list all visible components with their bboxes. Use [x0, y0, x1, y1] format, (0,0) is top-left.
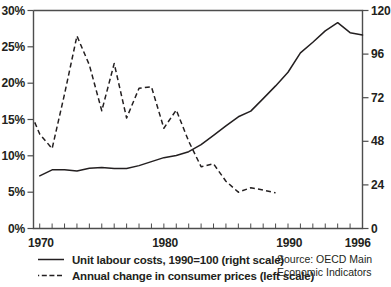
left-axis-tick-label: 15% [2, 113, 26, 127]
x-axis-tick-label: 1980 [152, 236, 178, 250]
series-group [35, 23, 363, 193]
left-axis-tick-label: 10% [2, 149, 26, 163]
source-note: Source: OECD Main Economic Indicators [277, 253, 372, 278]
series-line-consumer-price-change [35, 36, 276, 193]
left-axis-tick-label: 20% [2, 76, 26, 90]
x-axis-ticks [40, 224, 363, 229]
left-axis-tick-label: 0% [8, 222, 25, 236]
x-axis-tick-label: 1996 [345, 236, 371, 250]
right-axis-tick-label: 0 [371, 222, 378, 236]
x-axis-tick-label: 1970 [28, 236, 54, 250]
right-axis-tick-label: 72 [371, 91, 384, 105]
left-axis-tick-label: 5% [8, 185, 25, 199]
left-axis-tick-label: 30% [2, 4, 26, 18]
chart-figure: 30% 25% 20% 15% 10% 5% 0% 120 96 72 48 2… [0, 0, 391, 287]
plot-frame [34, 11, 363, 229]
right-axis-tick-label: 96 [371, 47, 384, 61]
right-axis-labels: 120 96 72 48 24 0 [371, 4, 391, 236]
x-axis-tick-label: 1990 [276, 236, 302, 250]
left-axis-ticks [28, 11, 34, 229]
series-line-unit-labour-costs [40, 23, 363, 176]
right-axis-ticks [363, 11, 369, 229]
legend-label-unit-labour-costs: Unit labour costs, 1990=100 (right scale… [72, 254, 284, 266]
right-axis-tick-label: 24 [371, 178, 384, 192]
chart-legend: Unit labour costs, 1990=100 (right scale… [38, 254, 315, 282]
chart-canvas: 30% 25% 20% 15% 10% 5% 0% 120 96 72 48 2… [0, 0, 391, 287]
left-axis-labels: 30% 25% 20% 15% 10% 5% 0% [2, 4, 26, 236]
source-note-line-1: Source: OECD Main [277, 253, 372, 265]
right-axis-tick-label: 48 [371, 134, 384, 148]
left-axis-tick-label: 25% [2, 40, 26, 54]
right-axis-tick-label: 120 [371, 4, 391, 18]
x-axis-labels: 1970 1980 1990 1996 [28, 236, 371, 250]
source-note-line-2: Economic Indicators [277, 266, 372, 278]
